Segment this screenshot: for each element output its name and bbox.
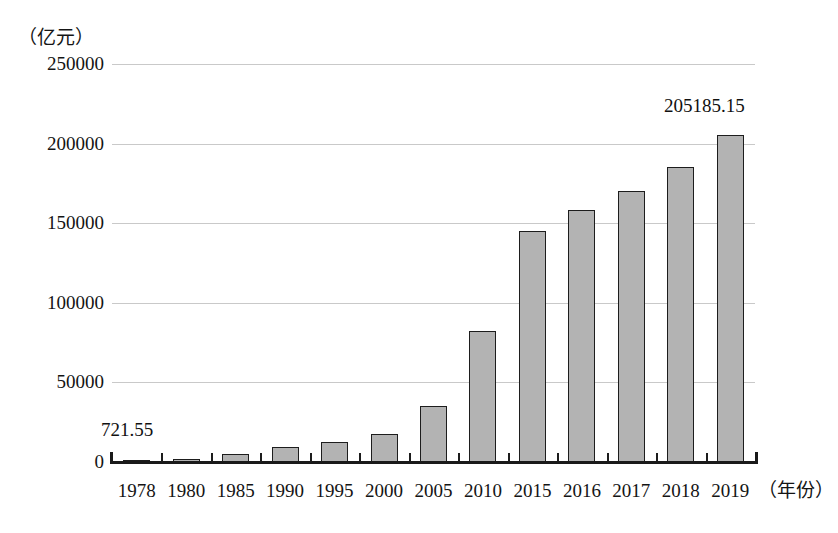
x-axis-tick-mark <box>656 453 658 462</box>
gdp-bar-chart: （亿元） 050000100000150000200000250000 （年份）… <box>0 0 838 533</box>
y-axis-tick-label: 200000 <box>8 134 104 153</box>
y-axis-right-stub <box>755 452 758 463</box>
bar <box>717 135 744 462</box>
y-axis-tick-label: 250000 <box>8 54 104 73</box>
y-axis-tick-label: 150000 <box>8 213 104 232</box>
annotation-last-value: 205185.15 <box>664 96 745 116</box>
bar <box>272 447 299 462</box>
bar <box>667 167 694 462</box>
x-axis-tick-mark <box>211 453 213 462</box>
x-axis-tick-mark <box>260 453 262 462</box>
bar <box>420 406 447 462</box>
x-axis-tick-mark <box>161 453 163 462</box>
bar <box>321 442 348 462</box>
y-axis-tick-labels: 050000100000150000200000250000 <box>0 64 104 462</box>
x-axis-tick-mark <box>607 453 609 462</box>
bars-layer <box>112 64 755 462</box>
x-axis-tick-label: 2019 <box>700 480 760 502</box>
x-axis-title: （年份） <box>758 480 834 502</box>
y-axis-tick-label: 50000 <box>8 372 104 391</box>
bar <box>371 434 398 462</box>
x-axis-tick-mark <box>310 453 312 462</box>
bar <box>568 210 595 462</box>
annotation-first-value: 721.55 <box>101 420 153 440</box>
y-axis-tick-label: 100000 <box>8 293 104 312</box>
x-axis-tick-mark <box>458 453 460 462</box>
x-axis-line <box>110 461 758 464</box>
x-axis-tick-mark <box>557 453 559 462</box>
y-axis-unit-label: （亿元） <box>18 22 94 49</box>
x-axis-tick-mark <box>409 453 411 462</box>
bar <box>469 331 496 462</box>
y-axis-tick-label: 0 <box>8 452 104 471</box>
x-axis-tick-mark <box>359 453 361 462</box>
x-axis-tick-mark <box>706 453 708 462</box>
bar <box>618 191 645 462</box>
y-axis-left-stub <box>110 452 113 463</box>
x-axis-tick-mark <box>508 453 510 462</box>
bar <box>519 231 546 462</box>
x-axis-tick-labels: （年份） 19781980198519901995200020052010201… <box>0 480 838 510</box>
